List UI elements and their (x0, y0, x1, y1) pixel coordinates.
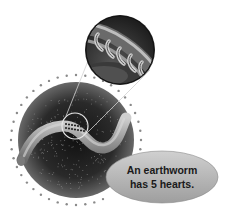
heart-dot (68, 123, 70, 125)
speckle (102, 160, 103, 161)
ring-dot (12, 157, 14, 159)
speckle (63, 115, 64, 116)
speckle (31, 154, 32, 155)
speckle (97, 116, 98, 117)
speckle (110, 116, 111, 117)
speckle (46, 160, 47, 161)
speckle (81, 179, 82, 180)
heart-dot (74, 128, 76, 130)
speckle (112, 133, 113, 134)
heart-dot (71, 124, 73, 126)
speckle (107, 114, 108, 115)
heart-dot (80, 129, 82, 131)
speckle (62, 188, 63, 189)
heart-dot (77, 125, 79, 127)
speckle (40, 172, 41, 173)
fact-callout: An earthworm has 5 hearts. (106, 151, 218, 203)
speckle (101, 104, 102, 105)
ring-dot (139, 148, 141, 150)
speckle (77, 142, 78, 143)
speckle (37, 118, 38, 119)
speckle (82, 170, 83, 171)
speckle (59, 184, 60, 185)
speckle (80, 148, 81, 149)
speckle (100, 162, 101, 163)
speckle (70, 183, 71, 184)
speckle (62, 149, 63, 150)
ring-dot (130, 104, 132, 106)
speckle (101, 176, 102, 177)
speckle (73, 164, 74, 165)
speckle (66, 183, 67, 184)
speckle (42, 169, 43, 170)
speckle (104, 171, 105, 172)
ring-dot (102, 198, 104, 200)
speckle (103, 98, 104, 99)
ring-dot (40, 194, 42, 196)
speckle (97, 179, 98, 180)
speckle (95, 160, 96, 161)
speckle (72, 105, 73, 106)
speckle (46, 122, 47, 123)
ring-dot (93, 76, 95, 78)
speckle (56, 156, 57, 157)
speckle (97, 158, 98, 159)
heart-dot (71, 128, 73, 130)
speckle (110, 121, 111, 122)
speckle (79, 167, 80, 168)
speckle (116, 156, 117, 157)
speckle (87, 174, 88, 175)
ring-dot (124, 96, 126, 98)
speckle (96, 134, 97, 135)
speckle (64, 165, 65, 166)
speckle (80, 182, 81, 183)
speckle (77, 117, 78, 118)
ring-dot (66, 203, 68, 205)
speckle (62, 159, 63, 160)
speckle (99, 183, 100, 184)
speckle (44, 144, 45, 145)
ring-dot (16, 112, 18, 114)
speckle (50, 181, 51, 182)
speckle (97, 129, 98, 130)
ring-dot (26, 96, 28, 98)
ring-dot (110, 84, 112, 86)
ring-dot (20, 174, 22, 176)
ring-dot (16, 166, 18, 168)
speckle (45, 105, 46, 106)
heart-dot (83, 126, 85, 128)
speckle (125, 141, 126, 142)
speckle (40, 150, 41, 151)
speckle (81, 150, 82, 151)
speckle (31, 129, 32, 130)
speckle (77, 176, 78, 177)
ring-dot (140, 139, 142, 141)
speckle (41, 153, 42, 154)
speckle (86, 124, 87, 125)
speckle (65, 150, 66, 151)
speckle (81, 177, 82, 178)
speckle (62, 145, 63, 146)
speckle (53, 172, 54, 173)
speckle (76, 164, 77, 165)
callout-line-1: An earthworm (127, 164, 198, 176)
speckle (35, 152, 36, 153)
speckle (71, 112, 72, 113)
speckle (58, 101, 59, 102)
ring-dot (11, 148, 13, 150)
speckle (91, 157, 92, 158)
speckle (99, 96, 100, 97)
speckle (81, 185, 82, 186)
speckle (76, 95, 77, 96)
ring-dot (57, 76, 59, 78)
ring-dot (117, 90, 119, 92)
speckle (61, 186, 62, 187)
speckle (73, 146, 74, 147)
ring-dot (20, 104, 22, 106)
speckle (41, 173, 42, 174)
ring-dot (32, 90, 34, 92)
speckle (73, 136, 74, 137)
speckle (69, 177, 70, 178)
speckle (79, 144, 80, 145)
speckle (101, 155, 102, 156)
